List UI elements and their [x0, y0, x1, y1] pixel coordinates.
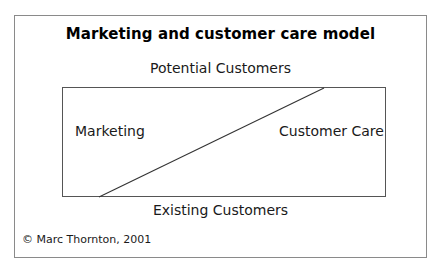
diagonal-divider-icon [62, 87, 386, 197]
diagram-canvas: Marketing and customer care model Potent… [0, 0, 445, 272]
page-title: Marketing and customer care model [14, 25, 427, 43]
region-label-marketing: Marketing [75, 123, 145, 139]
axis-label-top: Potential Customers [14, 60, 427, 76]
axis-label-bottom: Existing Customers [14, 202, 427, 218]
copyright-credit: © Marc Thornton, 2001 [22, 233, 151, 246]
region-label-customer-care: Customer Care [279, 123, 384, 139]
